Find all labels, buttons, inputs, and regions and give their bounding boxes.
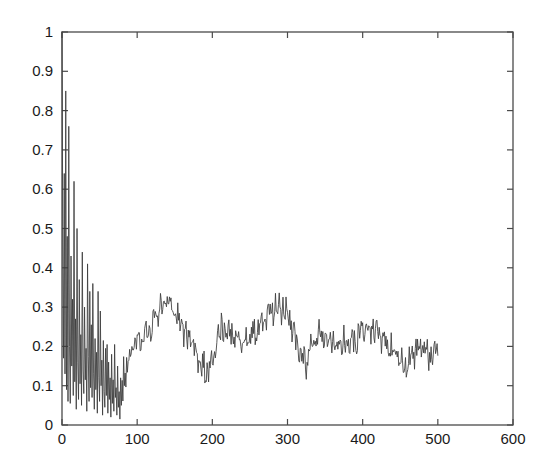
x-tick-label: 100: [125, 430, 150, 447]
figure-container: 00.10.20.30.40.50.60.70.80.91 0100200300…: [0, 0, 555, 475]
y-tick-label: 0.1: [32, 377, 53, 394]
y-tick-label: 0: [45, 416, 53, 433]
line-chart: 00.10.20.30.40.50.60.70.80.91 0100200300…: [0, 0, 555, 475]
y-tick-label: 0.4: [32, 259, 53, 276]
y-tick-label: 0.2: [32, 337, 53, 354]
y-tick-label: 0.7: [32, 141, 53, 158]
y-tick-label: 0.3: [32, 298, 53, 315]
chart-background: [0, 0, 555, 475]
x-tick-label: 0: [58, 430, 66, 447]
x-tick-label: 300: [275, 430, 300, 447]
x-tick-label: 500: [425, 430, 450, 447]
y-tick-label: 0.5: [32, 220, 53, 237]
y-tick-label: 0.8: [32, 102, 53, 119]
x-tick-label: 600: [500, 430, 525, 447]
x-tick-label: 400: [350, 430, 375, 447]
y-tick-label: 0.6: [32, 180, 53, 197]
y-tick-label: 1: [45, 23, 53, 40]
y-tick-label: 0.9: [32, 62, 53, 79]
x-tick-label: 200: [200, 430, 225, 447]
